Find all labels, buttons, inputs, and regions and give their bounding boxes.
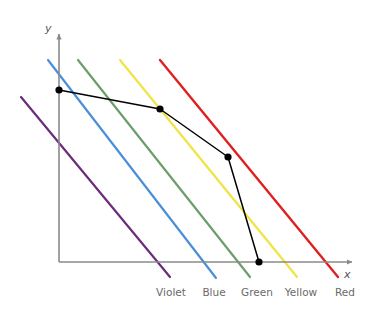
budget-line-violet (21, 97, 170, 277)
budget-line-yellow (120, 60, 297, 277)
budget-line-green (78, 60, 250, 277)
data-point-green (224, 153, 231, 160)
price-consumption-path (59, 90, 259, 262)
data-point-yellow (255, 258, 262, 265)
category-label-yellow: Yellow (284, 286, 318, 298)
category-label-blue: Blue (202, 286, 225, 298)
budget-lines-group (21, 60, 338, 278)
data-point-violet (55, 86, 62, 93)
category-label-violet: Violet (156, 286, 186, 298)
category-label-green: Green (241, 286, 273, 298)
y-axis-label: y (44, 22, 52, 35)
axes-group (59, 34, 352, 262)
category-label-red: Red (335, 286, 355, 298)
category-label-group: Violet Blue Green Yellow Red (156, 286, 355, 298)
chart-figure: y x Violet Blue Green Yellow Red (0, 0, 383, 319)
budget-line-red (160, 60, 338, 277)
plot-canvas: y x Violet Blue Green Yellow Red (0, 0, 383, 319)
x-axis-label: x (343, 268, 351, 281)
data-point-blue (156, 105, 163, 112)
